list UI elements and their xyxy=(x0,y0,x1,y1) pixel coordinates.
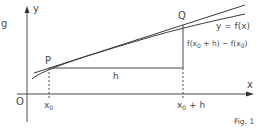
point-p-label: P xyxy=(45,56,51,66)
tick-label-x0-plus-h: x0 + h xyxy=(177,101,205,111)
origin-label: O xyxy=(16,97,24,107)
margin-letter: g xyxy=(1,19,7,29)
figure-caption: Fig. 1 xyxy=(234,118,254,126)
y-axis-label: y xyxy=(33,4,39,14)
h-label: h xyxy=(113,72,119,81)
curve-label: y = f(x) xyxy=(216,22,250,31)
difference-label: f(x0 + h) − f(x0) xyxy=(187,40,247,49)
diagram-canvas xyxy=(0,0,266,133)
tick-label-x0: x0 xyxy=(44,101,53,111)
x-axis-label: x xyxy=(247,80,253,90)
y-axis-arrow-icon xyxy=(25,6,30,13)
point-q-label: Q xyxy=(178,11,186,21)
x-axis-arrow-icon xyxy=(246,92,254,97)
